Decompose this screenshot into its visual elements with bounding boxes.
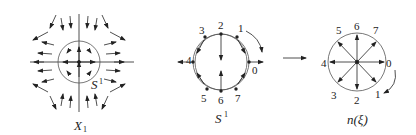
diagram-svg: S 1 X 1 0 1 2 3 [0,0,416,135]
right-caption: n(ξ) [347,112,368,127]
circle-label-sup: 1 [99,77,103,86]
n-label-3: 3 [331,89,337,101]
n-label-4: 4 [321,57,327,69]
n-label-7: 7 [373,24,379,36]
n-label-1: 1 [375,88,381,100]
point-label-5: 5 [201,92,207,104]
inner-arrows [63,47,95,77]
n-label-0: 0 [386,57,392,69]
point-label-7: 7 [235,92,241,104]
point-label-0: 0 [252,64,258,76]
point-label-6: 6 [218,94,224,106]
vector-field-panel [30,14,134,112]
n-arrows [330,35,384,89]
point-label-4: 4 [186,54,192,66]
rotation-arrow [246,31,262,52]
left-caption: X [73,118,83,133]
n-rotation-arrow [384,70,396,93]
left-caption-sub: 1 [83,125,87,134]
diagram: S 1 X 1 0 1 2 3 [0,0,416,135]
middle-caption-sup: 1 [224,110,228,119]
point-label-1: 1 [238,22,244,34]
middle-caption: S [215,111,222,126]
point-label-3: 3 [199,24,205,36]
circle-label: S [91,77,98,92]
point-label-2: 2 [218,19,224,31]
n-label-2: 2 [354,94,360,106]
n-label-5: 5 [336,24,342,36]
n-label-6: 6 [354,20,360,32]
